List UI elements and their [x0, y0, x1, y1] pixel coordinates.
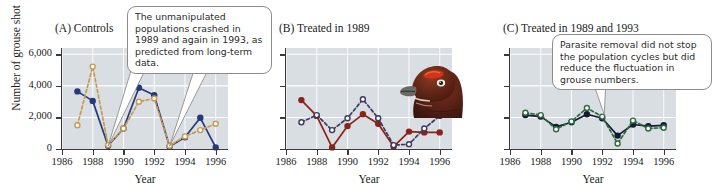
callout-leader-lines-c: [0, 0, 718, 195]
callout-controls: The unmanipulated populations crashed in…: [127, 6, 272, 74]
grouse-population-figure: Number of grouse shot (A) Controls 02,00…: [0, 0, 718, 195]
callout-treated: Parasite removal did not stop the popula…: [552, 34, 712, 90]
